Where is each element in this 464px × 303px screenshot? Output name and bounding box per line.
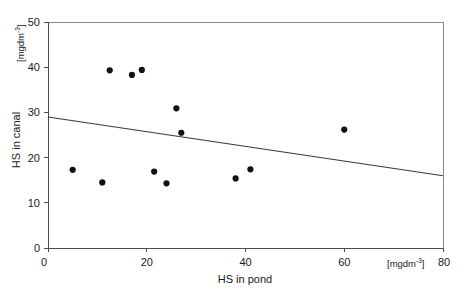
x-unit-close: ] bbox=[422, 258, 425, 269]
data-point bbox=[139, 67, 145, 73]
y-unit-close: ] bbox=[15, 25, 26, 28]
y-tick-label-50: 50 bbox=[28, 16, 40, 28]
x-tick-label-40: 40 bbox=[239, 256, 251, 268]
y-axis-ticks bbox=[44, 22, 48, 248]
data-point bbox=[151, 169, 157, 175]
y-tick-label-20: 20 bbox=[28, 152, 40, 164]
data-point bbox=[70, 167, 76, 173]
x-tick-label-0: 0 bbox=[41, 256, 47, 268]
data-point bbox=[173, 105, 179, 111]
scatter-plot-svg: 0 10 20 30 40 50 0 20 40 60 80 HS in pon… bbox=[0, 0, 464, 303]
y-tick-label-40: 40 bbox=[28, 61, 40, 73]
x-tick-label-60: 60 bbox=[338, 256, 350, 268]
x-axis-unit-label: [mgdm-3] bbox=[387, 257, 424, 269]
data-point bbox=[107, 67, 113, 73]
data-point bbox=[178, 130, 184, 136]
data-point bbox=[233, 175, 239, 181]
y-tick-label-10: 10 bbox=[28, 197, 40, 209]
y-tick-label-0: 0 bbox=[34, 242, 40, 254]
plot-axes bbox=[48, 22, 443, 248]
data-point bbox=[99, 179, 105, 185]
y-axis-title: HS in canal bbox=[10, 112, 22, 168]
chart-figure: 0 10 20 30 40 50 0 20 40 60 80 HS in pon… bbox=[0, 0, 464, 303]
plot-frame bbox=[48, 22, 443, 248]
x-axis-ticks bbox=[48, 248, 443, 252]
x-tick-label-20: 20 bbox=[141, 256, 153, 268]
data-point bbox=[247, 166, 253, 172]
y-tick-label-30: 30 bbox=[28, 106, 40, 118]
x-unit-base: [mgdm bbox=[387, 258, 416, 269]
svg-text:[mgdm-3]: [mgdm-3] bbox=[387, 257, 424, 269]
svg-text:[mgdm-3]: [mgdm-3] bbox=[14, 25, 26, 62]
regression-line bbox=[48, 117, 443, 176]
data-point bbox=[129, 72, 135, 78]
trend-line-layer bbox=[48, 117, 443, 176]
y-axis-unit-label: [mgdm-3] bbox=[14, 25, 26, 62]
x-axis-title: HS in pond bbox=[218, 273, 272, 285]
data-point bbox=[163, 180, 169, 186]
y-unit-base: [mgdm bbox=[15, 33, 26, 62]
x-tick-label-80: 80 bbox=[438, 256, 450, 268]
data-point bbox=[341, 126, 347, 132]
